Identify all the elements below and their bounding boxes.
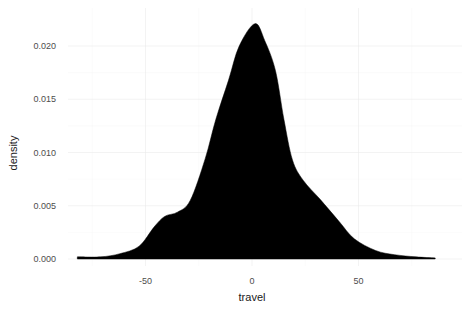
density-area — [77, 24, 435, 259]
y-axis-title: density — [7, 135, 19, 170]
density-chart: 0.0000.0050.0100.0150.020 -50050 travel … — [0, 0, 467, 313]
x-axis-ticks: -50050 — [139, 276, 364, 286]
y-axis-ticks: 0.0000.0050.0100.0150.020 — [33, 41, 56, 264]
y-tick-label: 0.005 — [33, 201, 56, 211]
y-tick-label: 0.020 — [33, 41, 56, 51]
y-tick-label: 0.015 — [33, 94, 56, 104]
x-tick-label: 0 — [249, 276, 254, 286]
x-tick-label: 50 — [353, 276, 363, 286]
x-tick-label: -50 — [139, 276, 152, 286]
y-tick-label: 0.000 — [33, 254, 56, 264]
x-axis-title: travel — [239, 291, 266, 303]
y-tick-label: 0.010 — [33, 148, 56, 158]
